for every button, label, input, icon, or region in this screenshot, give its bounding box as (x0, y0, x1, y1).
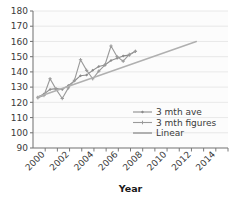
y-tick-label: 100 (11, 128, 28, 138)
legend-label: Linear (156, 128, 184, 138)
y-tick-label: 130 (11, 82, 28, 92)
y-tick-label: 90 (17, 143, 29, 153)
line-chart: 90100110120130140150160170180 2000200220… (0, 0, 234, 200)
legend-label: 3 mth figures (156, 118, 217, 128)
y-tick-label: 160 (11, 37, 28, 47)
y-tick-label: 110 (11, 113, 28, 123)
y-tick-label: 140 (11, 67, 28, 77)
y-tick-label: 170 (11, 21, 28, 31)
y-tick-label: 180 (11, 6, 28, 16)
y-tick-label: 150 (11, 52, 28, 62)
legend-label: 3 mth ave (156, 107, 202, 117)
chart-container: 90100110120130140150160170180 2000200220… (0, 0, 234, 200)
x-axis-title: Year (118, 183, 143, 194)
y-tick-label: 120 (11, 98, 28, 108)
